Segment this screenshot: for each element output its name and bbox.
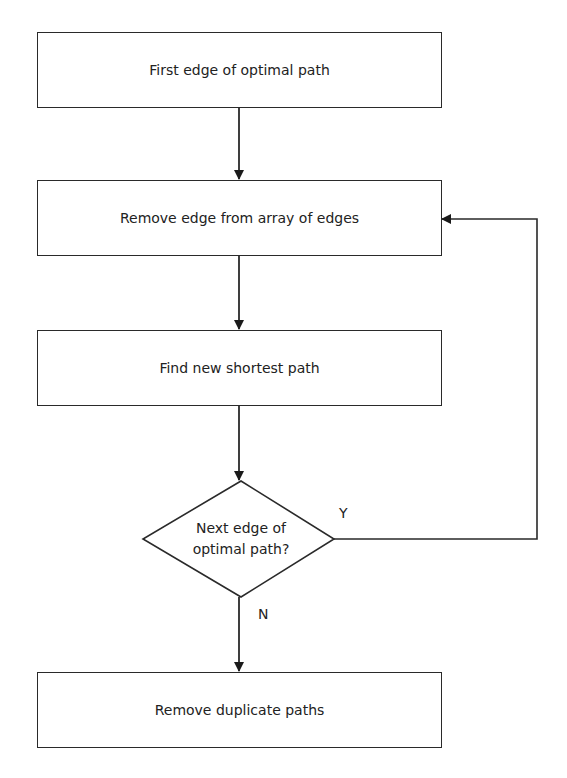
node-find-shortest-path: Find new shortest path (37, 330, 442, 406)
node-label: Find new shortest path (159, 360, 319, 376)
node-label: Remove edge from array of edges (120, 210, 359, 226)
branch-no-label: N (258, 606, 268, 622)
decision-label: Next edge of optimal path? (166, 518, 316, 560)
node-label: First edge of optimal path (149, 62, 330, 78)
node-remove-edge: Remove edge from array of edges (37, 180, 442, 256)
decision-label-line1: Next edge of (166, 518, 316, 539)
node-label: Remove duplicate paths (155, 702, 325, 718)
decision-label-line2: optimal path? (166, 539, 316, 560)
branch-yes-label: Y (339, 505, 348, 521)
node-remove-duplicates: Remove duplicate paths (37, 672, 442, 748)
node-first-edge: First edge of optimal path (37, 32, 442, 108)
